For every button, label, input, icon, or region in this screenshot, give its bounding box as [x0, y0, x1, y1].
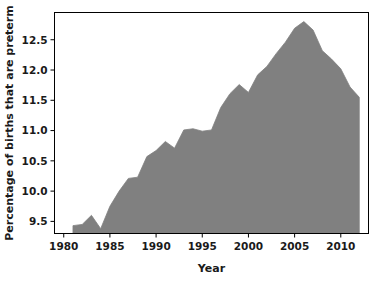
y-tick-label: 12.5 — [22, 34, 48, 46]
preterm-births-area-chart: 1980198519901995200020052010 9.510.010.5… — [0, 0, 385, 285]
chart-figure: 1980198519901995200020052010 9.510.010.5… — [0, 0, 385, 285]
y-axis-label: Percentage of births that are preterm — [3, 5, 16, 240]
y-tick-label: 10.0 — [22, 185, 48, 197]
x-axis-label: Year — [197, 262, 226, 275]
y-tick-label: 12.0 — [22, 64, 48, 76]
x-tick-label: 1985 — [95, 240, 124, 252]
x-tick-label: 1980 — [49, 240, 78, 252]
x-tick-label: 1990 — [141, 240, 170, 252]
x-tick-label: 2005 — [280, 240, 309, 252]
x-tick-label: 2010 — [326, 240, 355, 252]
x-tick-label: 2000 — [234, 240, 263, 252]
y-tick-label: 11.0 — [22, 124, 48, 136]
x-tick-label: 1995 — [188, 240, 217, 252]
y-tick-label: 11.5 — [22, 94, 48, 106]
y-tick-label: 9.5 — [29, 215, 48, 227]
y-tick-label: 10.5 — [22, 155, 48, 167]
